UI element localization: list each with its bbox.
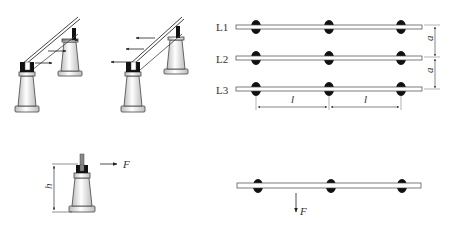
force-label: F: [299, 205, 307, 217]
spacing-label-a: a: [423, 67, 435, 73]
figure-busbar-force: F: [237, 179, 421, 217]
spacing-label-a: a: [423, 35, 435, 41]
height-label: h: [42, 183, 54, 189]
diagram-canvas: h F L1 L2 L3 a a l: [0, 0, 449, 225]
phase-label-l2: L2: [216, 53, 228, 65]
figure-insulators-force-left: [111, 17, 188, 112]
busbar: [237, 183, 421, 188]
insulator-back: [58, 28, 82, 76]
phase-label-l1: L1: [216, 21, 228, 33]
insulator-front: [15, 62, 39, 112]
busbar-l3: [236, 87, 422, 91]
figure-insulator-height: h F: [42, 154, 130, 212]
busbar-l1: [236, 25, 422, 29]
figure-three-phase-busbars: L1 L2 L3 a a l l: [216, 20, 440, 110]
span-label-l: l: [291, 93, 294, 105]
insulator-front: [121, 62, 145, 112]
busbar-l2: [236, 56, 422, 60]
conductor-stub: [80, 154, 84, 166]
phase-label-l3: L3: [216, 84, 229, 96]
figure-insulators-force-right: [15, 17, 82, 112]
insulator-side: [69, 165, 95, 212]
span-label-l: l: [364, 93, 367, 105]
force-label: F: [122, 158, 130, 170]
